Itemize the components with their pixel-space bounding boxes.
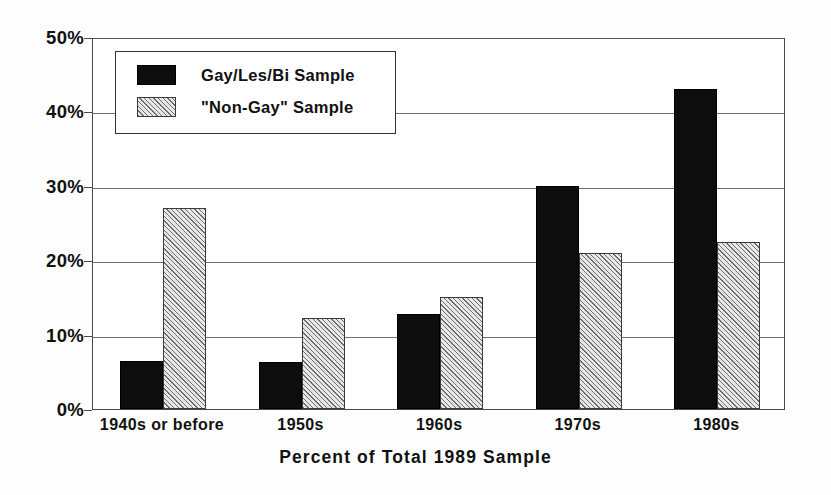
- y-axis-tick-mark: [84, 336, 92, 337]
- bar: [717, 242, 760, 409]
- y-axis-tick-mark: [84, 38, 92, 39]
- legend-label: "Non-Gay" Sample: [201, 98, 353, 117]
- bar: [163, 208, 206, 409]
- bar: [397, 314, 440, 409]
- legend-entry-non-gay-sample: "Non-Gay" Sample: [137, 97, 353, 117]
- y-axis-tick-mark: [84, 112, 92, 113]
- y-axis-tick-label: 10%: [0, 325, 84, 347]
- chart-legend: Gay/Les/Bi Sample "Non-Gay" Sample: [115, 51, 396, 134]
- y-axis-tick-mark: [84, 410, 92, 411]
- y-axis-tick-label: 0%: [0, 399, 84, 421]
- legend-entry-gay-les-bi-sample: Gay/Les/Bi Sample: [137, 65, 355, 85]
- y-axis-tick-label: 30%: [0, 176, 84, 198]
- legend-swatch-hatch-icon: [137, 97, 176, 117]
- x-axis-tick-label: 1960s: [416, 416, 463, 434]
- y-axis-tick-mark: [84, 187, 92, 188]
- legend-label: Gay/Les/Bi Sample: [201, 66, 355, 85]
- x-axis-tick-label: 1980s: [693, 416, 740, 434]
- plot-area: Gay/Les/Bi Sample "Non-Gay" Sample: [92, 38, 785, 410]
- bar: [259, 362, 302, 409]
- bar: [120, 361, 163, 409]
- bar: [302, 318, 345, 410]
- x-axis-title: Percent of Total 1989 Sample: [0, 447, 831, 468]
- bar: [579, 253, 622, 409]
- x-axis-tick-label: 1970s: [555, 416, 602, 434]
- bar: [440, 297, 483, 409]
- bar: [674, 89, 717, 409]
- y-axis-tick-label: 20%: [0, 250, 84, 272]
- legend-swatch-solid-icon: [137, 65, 176, 85]
- x-axis-tick-label: 1950s: [277, 416, 324, 434]
- bar-chart: 0%10%20%30%40%50% Gay/Les/Bi Sample "Non…: [0, 0, 831, 495]
- y-axis-tick-label: 40%: [0, 101, 84, 123]
- y-axis-tick-label: 50%: [0, 27, 84, 49]
- bar: [536, 186, 579, 409]
- x-axis-tick-label: 1940s or before: [100, 416, 224, 434]
- y-axis-tick-mark: [84, 261, 92, 262]
